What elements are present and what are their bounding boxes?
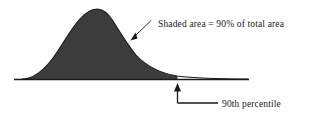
percentile-label: 90th percentile	[222, 99, 281, 109]
percentile-arrowhead-icon	[174, 83, 181, 92]
distribution-figure: Shaded area = 90% of total area 90th per…	[0, 0, 310, 120]
shaded-area-leader-line	[134, 21, 151, 38]
shaded-area-label: Shaded area = 90% of total area	[158, 19, 285, 29]
shaded-area-arrowhead-icon	[131, 33, 138, 41]
